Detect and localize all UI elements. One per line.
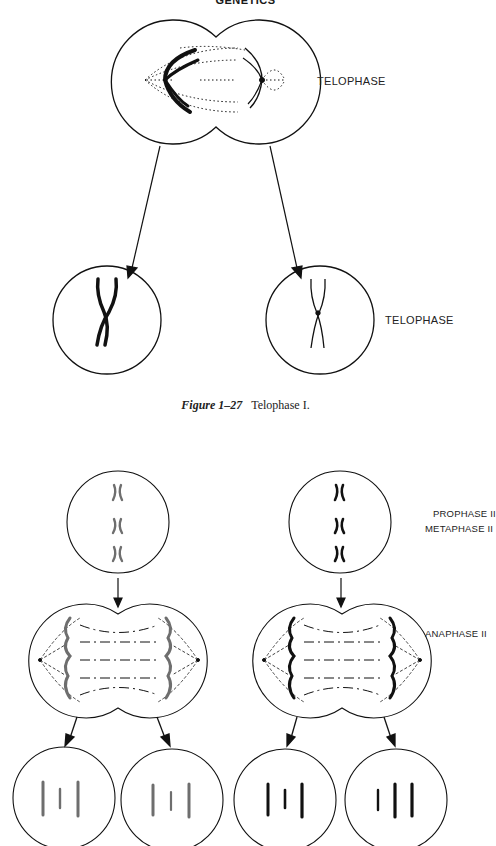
label-telophase-daughters: TELOPHASE xyxy=(385,314,454,326)
prophase-ii-cell-left xyxy=(67,471,169,573)
prophase-ii-cell-right xyxy=(289,471,391,573)
label-metaphase-ii: METAPHASE II xyxy=(425,523,493,534)
label-anaphase-ii: ANAPHASE II xyxy=(425,628,487,639)
daughter-cell-thick xyxy=(53,266,161,374)
anaphase-ii-cell-right xyxy=(253,604,431,718)
telophase-ii-cell-2 xyxy=(121,749,223,846)
telophase-ii-cell-4 xyxy=(345,749,447,846)
telophase-ii-cell-1 xyxy=(13,747,115,846)
chromosome-thin xyxy=(245,48,262,108)
arrows-to-daughter-cells xyxy=(127,146,302,278)
figure-caption: Figure 1–27 Telophase I. xyxy=(0,398,491,413)
label-prophase-ii: PROPHASE II xyxy=(433,508,496,519)
anaphase-ii-cell-left xyxy=(29,604,207,718)
telophase-ii-cell-3 xyxy=(234,749,336,846)
figure-caption-text: Telophase I. xyxy=(251,398,309,412)
figure-number: Figure 1–27 xyxy=(181,398,242,412)
arrows-to-anaphase xyxy=(114,578,345,607)
label-telophase-top: TELOPHASE xyxy=(317,75,386,87)
arrows-to-telophase-ii xyxy=(65,717,395,746)
telophase-i-dividing-cell xyxy=(111,20,320,144)
chromosome-thick xyxy=(165,50,195,112)
daughter-cell-thin xyxy=(266,266,374,374)
